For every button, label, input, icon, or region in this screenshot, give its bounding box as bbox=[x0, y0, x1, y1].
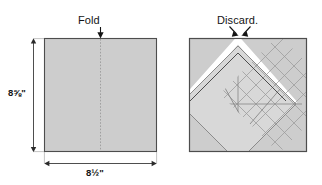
down-arrow-icon bbox=[97, 27, 103, 38]
diamond-grid-panel: Discard. bbox=[161, 0, 322, 185]
double-arrow-down-icon bbox=[230, 27, 251, 37]
right-diagram-svg bbox=[161, 0, 322, 185]
folded-square-panel: Fold bbox=[0, 0, 161, 185]
figure-canvas: Fold bbox=[0, 0, 322, 185]
width-dimension-label: 8½" bbox=[86, 168, 104, 178]
height-dimension-label: 8⅝" bbox=[8, 88, 26, 98]
vertical-dimension-line bbox=[31, 38, 44, 152]
horizontal-dimension-line bbox=[44, 152, 157, 166]
